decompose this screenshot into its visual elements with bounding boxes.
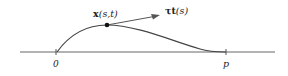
tangent-label: τt(s) <box>165 5 188 16</box>
curve-diagram: x(s,t) τt(s) 0 p <box>0 0 288 76</box>
curve-point <box>105 23 110 28</box>
curve <box>57 25 226 52</box>
point-label: x(s,t) <box>93 8 118 19</box>
tick-label-zero: 0 <box>53 59 59 69</box>
tick-label-p: p <box>223 58 229 69</box>
arrowhead-icon <box>151 14 160 20</box>
